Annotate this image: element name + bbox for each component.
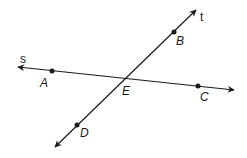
point-c-label: C <box>200 90 209 104</box>
line-t-label: t <box>200 10 204 24</box>
point-c-marker <box>196 84 201 89</box>
point-a-label: A <box>39 76 48 90</box>
geometry-diagram: s t A B C D E <box>0 0 247 158</box>
point-d-marker <box>75 123 80 128</box>
point-b-label: B <box>176 34 184 48</box>
point-a-marker <box>50 69 55 74</box>
point-d-label: D <box>80 126 89 140</box>
line-s-label: s <box>20 52 26 66</box>
point-e-label: E <box>122 84 131 98</box>
